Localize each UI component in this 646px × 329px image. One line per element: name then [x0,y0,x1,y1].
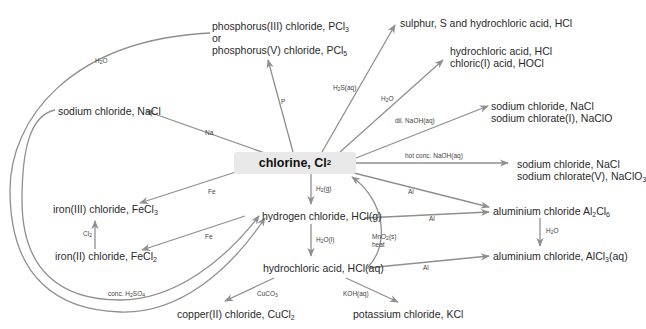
reagent-al-cl2: Al [408,188,414,196]
reagent-mno2-heat: MnO2(s)heat [372,233,396,249]
reagent-hot-conc-naoh: hot conc. NaOH(aq) [405,152,463,160]
node-aluminium-chloride-alcl3: aluminium chloride, AlCl3(aq) [493,250,628,262]
reagent-al-hclaq: Al [423,264,429,272]
reagent-dil-naoh: dil. NaOH(aq) [395,117,435,125]
arrow-cl2-to-naclo [356,106,488,158]
reagent-cuco3: CuCO3 [257,290,278,298]
node-iron-iii-chloride: iron(III) chloride, FeCl3 [53,203,158,215]
node-hcl-hocl: hydrochloric acid, HCl chloric(I) acid, … [450,45,552,69]
reagent-h2s: H2S(aq) [333,84,356,92]
node-nacl-naclo: sodium chloride, NaCl sodium chlorate(I)… [491,100,612,124]
arrow-hclg-to-al2cl6 [364,212,489,218]
reagent-h2o-top: H2O [95,57,108,65]
reagent-cl2: Cl2 [83,230,92,238]
node-sodium-chloride: sodium chloride, NaCl [58,105,161,117]
node-potassium-chloride: potassium chloride, KCl [353,308,463,320]
arrow-hclg-to-fecl2 [142,216,245,250]
node-hydrogen-chloride-gas: hydrogen chloride, HCl(g) [262,210,382,222]
node-phosphorus-chlorides: phosphorus(III) chloride, PCl3 or phosph… [212,20,349,56]
reagent-h2o-l: H2O(l) [316,236,334,244]
reagent-al-hclg: Al [429,215,435,223]
arrow-pcl-to-hclg [10,33,265,312]
reagent-fe-top: Fe [208,188,216,196]
node-sulphur-hcl: sulphur, S and hydrochloric acid, HCl [400,17,572,29]
reagent-fe-bottom: Fe [205,233,213,241]
node-copper-ii-chloride: copper(II) chloride, CuCl2 [177,308,295,320]
reagent-koh: KOH(aq) [343,290,369,298]
arrow-cl2-to-hocl [340,60,443,152]
reagent-conc-h2so4: conc. H2SO4 [108,290,145,298]
chlorine-center-node: chlorine, Cl2 [234,152,356,174]
node-hydrochloric-acid-aq: hydrochloric acid, HCl(aq) [263,262,384,274]
center-label: chlorine, Cl [259,156,327,170]
reagent-na: Na [205,129,213,137]
arrow-hclaq-to-cl2 [352,177,381,267]
arrow-cl2-to-al2cl6 [350,172,489,207]
node-iron-ii-chloride: iron(II) chloride, FeCl2 [55,250,157,262]
reagent-h2o-al: H2O [546,227,559,235]
reagent-h2o-hocl: H2O [381,95,394,103]
arrow-cl2-to-pcl [268,60,293,152]
arrow-cl2-to-fecl3 [140,170,242,203]
node-nacl-naclo3: sodium chloride, NaCl sodium chlorate(V)… [517,158,646,182]
reagent-h2g: H2(g) [316,185,331,193]
node-aluminium-chloride-al2cl6: aluminium chloride Al2Cl6 [493,205,610,217]
reagent-p: P [281,98,285,106]
